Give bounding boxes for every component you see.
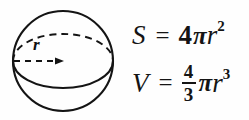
- surface-area-variable: S: [132, 20, 146, 51]
- equator-back-arc-dashed: [13, 34, 113, 61]
- volume-equals-sign: =: [159, 69, 173, 97]
- volume-radius-symbol: r: [212, 68, 223, 99]
- formula-list: S = 4 π r 2 V = 4 3 π r 3: [130, 0, 249, 120]
- sphere-svg: [0, 0, 125, 120]
- volume-fraction-numerator: 4: [183, 62, 195, 81]
- volume-variable: V: [132, 68, 149, 99]
- volume-pi-symbol: π: [199, 69, 213, 97]
- volume-exponent: 3: [223, 66, 231, 83]
- volume-fraction-denominator: 3: [183, 85, 195, 104]
- radius-arrowhead-icon: [55, 58, 64, 65]
- surface-area-equals-sign: =: [156, 22, 170, 50]
- radius-label: r: [33, 36, 40, 53]
- surface-area-pi-symbol: π: [193, 22, 207, 50]
- volume-formula: V = 4 3 π r 3: [132, 62, 230, 105]
- surface-area-radius-symbol: r: [207, 20, 218, 51]
- equator-front-arc-solid: [13, 61, 113, 88]
- sphere-formula-figure: r S = 4 π r 2 V = 4 3 π r 3: [0, 0, 249, 120]
- surface-area-exponent: 2: [217, 18, 225, 35]
- surface-area-coefficient: 4: [179, 20, 193, 51]
- surface-area-formula: S = 4 π r 2: [132, 20, 225, 51]
- volume-fraction: 4 3: [182, 62, 196, 105]
- sphere-diagram: r: [0, 0, 125, 120]
